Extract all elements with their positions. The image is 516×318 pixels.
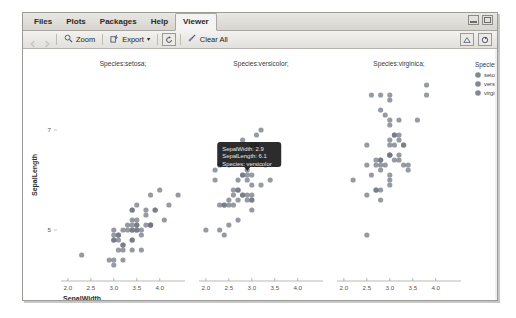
data-point[interactable] bbox=[226, 197, 231, 202]
export-button[interactable]: Export ▾ bbox=[107, 33, 153, 46]
data-point[interactable] bbox=[249, 192, 254, 197]
data-point[interactable] bbox=[235, 187, 240, 192]
data-point[interactable] bbox=[235, 197, 240, 202]
data-point[interactable] bbox=[111, 257, 116, 262]
data-point[interactable] bbox=[396, 132, 401, 137]
data-point[interactable] bbox=[364, 162, 369, 167]
data-point[interactable] bbox=[120, 247, 125, 252]
data-point[interactable] bbox=[424, 92, 429, 97]
data-point[interactable] bbox=[130, 222, 135, 227]
data-point[interactable] bbox=[212, 177, 217, 182]
forward-arrow-icon[interactable] bbox=[42, 35, 52, 45]
data-point[interactable] bbox=[401, 162, 406, 167]
data-point[interactable] bbox=[217, 227, 222, 232]
data-point[interactable] bbox=[373, 157, 378, 162]
refresh-button[interactable] bbox=[162, 33, 176, 46]
data-point[interactable] bbox=[111, 262, 116, 267]
data-point[interactable] bbox=[387, 172, 392, 177]
data-point[interactable] bbox=[148, 222, 153, 227]
data-point[interactable] bbox=[125, 222, 130, 227]
data-point[interactable] bbox=[143, 207, 148, 212]
data-point[interactable] bbox=[387, 137, 392, 142]
data-point[interactable] bbox=[217, 202, 222, 207]
data-point[interactable] bbox=[148, 192, 153, 197]
data-point[interactable] bbox=[139, 227, 144, 232]
refresh-view-button[interactable] bbox=[478, 33, 492, 46]
data-point[interactable] bbox=[79, 252, 84, 257]
data-point[interactable] bbox=[139, 232, 144, 237]
data-point[interactable] bbox=[415, 117, 420, 122]
data-point[interactable] bbox=[130, 237, 135, 242]
data-point[interactable] bbox=[111, 227, 116, 232]
data-point[interactable] bbox=[364, 142, 369, 147]
publish-button[interactable] bbox=[460, 33, 474, 46]
data-point[interactable] bbox=[387, 177, 392, 182]
data-point[interactable] bbox=[378, 92, 383, 97]
data-point[interactable] bbox=[153, 207, 158, 212]
data-point[interactable] bbox=[387, 122, 392, 127]
data-point[interactable] bbox=[364, 232, 369, 237]
clear-all-button[interactable]: Clear All bbox=[185, 33, 231, 46]
data-point[interactable] bbox=[396, 137, 401, 142]
data-point[interactable] bbox=[378, 197, 383, 202]
data-point[interactable] bbox=[212, 167, 217, 172]
data-point[interactable] bbox=[392, 142, 397, 147]
data-point[interactable] bbox=[387, 152, 392, 157]
data-point[interactable] bbox=[249, 182, 254, 187]
data-point[interactable] bbox=[396, 157, 401, 162]
data-point[interactable] bbox=[116, 237, 121, 242]
tab-plots[interactable]: Plots bbox=[59, 14, 93, 30]
data-point[interactable] bbox=[130, 217, 135, 222]
data-point[interactable] bbox=[116, 232, 121, 237]
data-point[interactable] bbox=[176, 192, 181, 197]
data-point[interactable] bbox=[111, 232, 116, 237]
data-point[interactable] bbox=[387, 117, 392, 122]
minimize-window-button[interactable] bbox=[468, 15, 479, 25]
data-point[interactable] bbox=[235, 177, 240, 182]
data-point[interactable] bbox=[143, 212, 148, 217]
data-point[interactable] bbox=[222, 232, 227, 237]
data-point[interactable] bbox=[222, 202, 227, 207]
data-point[interactable] bbox=[383, 162, 388, 167]
tab-files[interactable]: Files bbox=[27, 14, 59, 30]
data-point[interactable] bbox=[120, 227, 125, 232]
data-point[interactable] bbox=[392, 132, 397, 137]
data-point[interactable] bbox=[231, 202, 236, 207]
data-point[interactable] bbox=[387, 142, 392, 147]
data-point[interactable] bbox=[254, 132, 259, 137]
data-point[interactable] bbox=[231, 187, 236, 192]
tab-viewer[interactable]: Viewer bbox=[175, 13, 217, 31]
data-point[interactable] bbox=[130, 247, 135, 252]
data-point[interactable] bbox=[139, 247, 144, 252]
data-point[interactable] bbox=[364, 192, 369, 197]
plot-canvas[interactable]: 57SepalLengthSpecies:setosa;2.02.53.03.5… bbox=[23, 49, 495, 300]
data-point[interactable] bbox=[134, 227, 139, 232]
data-point[interactable] bbox=[378, 157, 383, 162]
data-point[interactable] bbox=[387, 97, 392, 102]
zoom-button[interactable]: Zoom bbox=[61, 33, 98, 46]
data-point[interactable] bbox=[143, 222, 148, 227]
data-point[interactable] bbox=[130, 227, 135, 232]
tab-packages[interactable]: Packages bbox=[93, 14, 144, 30]
data-point[interactable] bbox=[401, 142, 406, 147]
data-point[interactable] bbox=[396, 152, 401, 157]
data-point[interactable] bbox=[396, 117, 401, 122]
data-point[interactable] bbox=[111, 237, 116, 242]
data-point[interactable] bbox=[406, 162, 411, 167]
data-point[interactable] bbox=[268, 177, 273, 182]
data-point[interactable] bbox=[383, 112, 388, 117]
data-point[interactable] bbox=[387, 182, 392, 187]
data-point[interactable] bbox=[373, 162, 378, 167]
data-point[interactable] bbox=[258, 182, 263, 187]
back-arrow-icon[interactable] bbox=[28, 35, 38, 45]
data-point[interactable] bbox=[162, 217, 167, 222]
data-point[interactable] bbox=[120, 257, 125, 262]
data-point[interactable] bbox=[258, 127, 263, 132]
maximize-window-button[interactable] bbox=[482, 15, 493, 25]
data-point[interactable] bbox=[240, 137, 245, 142]
data-point[interactable] bbox=[107, 257, 112, 262]
data-point[interactable] bbox=[120, 242, 125, 247]
data-point[interactable] bbox=[125, 227, 130, 232]
data-point[interactable] bbox=[378, 167, 383, 172]
data-point[interactable] bbox=[231, 192, 236, 197]
